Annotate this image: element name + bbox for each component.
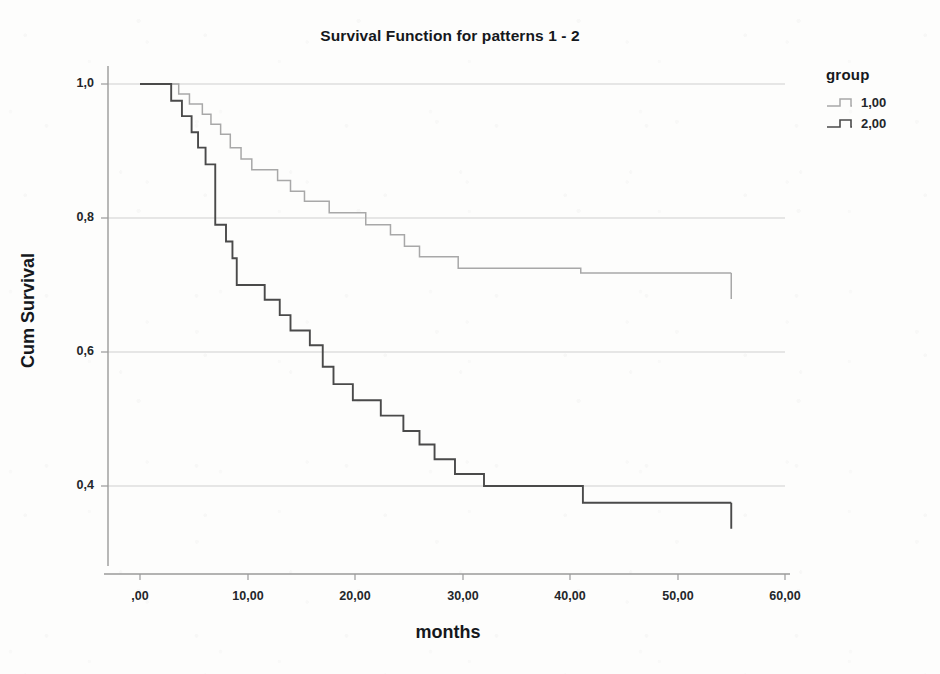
gridlines — [108, 84, 785, 486]
legend: group 1,00 2,00 — [826, 66, 936, 134]
survival-curve-group-1,00 — [140, 84, 731, 273]
survival-curves — [140, 84, 731, 529]
x-tick-label-60: 60,00 — [750, 589, 820, 603]
y-tick-marks — [101, 84, 108, 486]
y-axis-title: Cum Survival — [18, 221, 39, 401]
x-tick-label-20: 20,00 — [320, 589, 390, 603]
x-axis-title: months — [358, 622, 538, 643]
legend-swatch-group2-icon — [826, 116, 860, 131]
legend-item-group1[interactable]: 1,00 — [826, 92, 936, 113]
x-tick-label-30: 30,00 — [428, 589, 498, 603]
y-tick-label-0.4: 0,4 — [38, 478, 94, 492]
x-tick-label-50: 50,00 — [643, 589, 713, 603]
legend-item-group2[interactable]: 2,00 — [826, 113, 936, 134]
x-tick-label-0: ,00 — [105, 589, 175, 603]
y-tick-label-0.6: 0,6 — [38, 344, 94, 358]
x-tick-marks — [140, 574, 785, 580]
survival-curve-group-2,00 — [140, 84, 731, 503]
legend-title: group — [826, 66, 936, 83]
x-tick-label-10: 10,00 — [213, 589, 283, 603]
axis-lines — [104, 66, 790, 574]
y-tick-label-0.8: 0,8 — [38, 210, 94, 224]
legend-swatch-group1-icon — [826, 95, 860, 110]
chart-page: Survival Function for patterns 1 - 2 — [0, 0, 940, 674]
survival-plot — [0, 0, 940, 674]
legend-label-group2: 2,00 — [861, 116, 886, 131]
y-tick-label-1.0: 1,0 — [38, 76, 94, 90]
legend-label-group1: 1,00 — [861, 95, 886, 110]
x-tick-label-40: 40,00 — [535, 589, 605, 603]
